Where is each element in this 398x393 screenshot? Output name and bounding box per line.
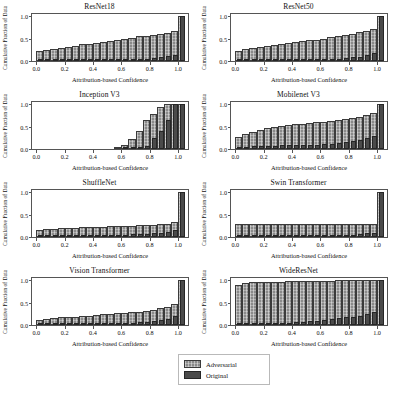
bar-original: [180, 104, 185, 149]
bar-original: [379, 192, 384, 237]
y-axis-label-text: Cumulative Fraction of Data: [201, 269, 207, 333]
y-tick: [228, 192, 232, 193]
bar-adversarial: [264, 282, 271, 325]
figure-legend: Adversarial Original: [178, 354, 270, 385]
y-tick-label: 0.5: [219, 299, 227, 306]
x-tick: [36, 149, 37, 153]
x-tick: [264, 61, 265, 65]
bar-adversarial: [313, 40, 320, 61]
y-tick-label: 0.0: [20, 58, 28, 65]
y-tick-label: 0.0: [219, 322, 227, 329]
x-tick: [292, 237, 293, 241]
y-tick: [228, 61, 232, 62]
y-axis-label: Cumulative Fraction of Data: [197, 277, 211, 326]
y-axis-label: Cumulative Fraction of Data: [0, 101, 12, 150]
y-axis-label: Cumulative Fraction of Data: [197, 101, 211, 150]
plot-axes: 0.00.20.40.60.81.00.00.51.0: [230, 189, 388, 238]
x-tick-label: 0.0: [32, 241, 40, 248]
y-tick: [228, 303, 232, 304]
x-tick-label: 1.0: [174, 65, 182, 72]
x-tick-label: 0.4: [288, 241, 296, 248]
x-tick: [377, 61, 378, 65]
plot-axes: 0.00.20.40.60.81.00.00.51.0: [230, 277, 388, 326]
x-tick: [178, 149, 179, 153]
subplot-inception-v3: Inception V3Cumulative Fraction of Data0…: [0, 88, 199, 176]
x-tick: [93, 149, 94, 153]
y-tick: [29, 39, 33, 40]
bar-adversarial: [292, 281, 299, 325]
y-tick: [29, 104, 33, 105]
y-tick: [228, 280, 232, 281]
x-tick-label: 0.6: [117, 241, 125, 248]
x-tick-label: 0.6: [117, 329, 125, 336]
y-tick: [228, 237, 232, 238]
y-tick-label: 0.0: [20, 322, 28, 329]
bar-group: [32, 190, 188, 237]
legend-entry-original: Original: [184, 370, 264, 380]
bar-adversarial: [143, 120, 150, 149]
bar-adversarial: [249, 282, 256, 325]
x-tick-label: 0.0: [231, 241, 239, 248]
x-tick-label: 0.4: [288, 153, 296, 160]
bar-adversarial: [335, 36, 342, 61]
subplot-title: Swin Transformer: [199, 178, 398, 187]
plot-axes: 0.00.20.40.60.81.00.00.51.0: [31, 189, 189, 238]
subplot-wideresnet: WideResNetCumulative Fraction of Data0.0…: [199, 264, 398, 352]
x-tick: [349, 325, 350, 329]
y-tick-label: 0.5: [20, 211, 28, 218]
subplot-title: Inception V3: [0, 90, 199, 99]
x-tick-label: 0.6: [316, 65, 324, 72]
x-tick-label: 0.6: [316, 241, 324, 248]
y-tick-label: 0.0: [20, 234, 28, 241]
x-tick-label: 1.0: [174, 329, 182, 336]
x-tick-label: 0.2: [61, 329, 69, 336]
y-tick-label: 0.5: [219, 123, 227, 130]
bar-adversarial: [128, 38, 135, 61]
bar-adversarial: [320, 39, 327, 61]
y-axis-label-text: Cumulative Fraction of Data: [201, 93, 207, 157]
x-tick: [150, 149, 151, 153]
y-tick-label: 0.5: [20, 123, 28, 130]
bar-original: [379, 104, 384, 149]
bar-original: [180, 16, 185, 61]
x-axis-label: Attribution-based Confidence: [230, 340, 388, 347]
plot-area: [32, 14, 188, 61]
plot-area: [32, 278, 188, 325]
bar-group: [231, 190, 387, 237]
bar-adversarial: [114, 147, 121, 149]
x-tick: [320, 149, 321, 153]
legend-swatch-adversarial-icon: [184, 360, 201, 368]
x-tick: [320, 237, 321, 241]
subplot-title: ShuffleNet: [0, 178, 199, 187]
subplot-resnet18: ResNet18Cumulative Fraction of Data0.00.…: [0, 0, 199, 88]
y-tick: [29, 280, 33, 281]
plot-area: [231, 190, 387, 237]
x-tick: [377, 237, 378, 241]
x-tick: [178, 61, 179, 65]
bar-adversarial: [306, 40, 313, 61]
x-tick: [93, 237, 94, 241]
y-tick-label: 0.0: [219, 234, 227, 241]
bar-adversarial: [150, 35, 157, 61]
bar-adversarial: [121, 39, 128, 61]
x-axis-label: Attribution-based Confidence: [230, 252, 388, 259]
bar-original: [379, 280, 384, 325]
x-tick-label: 0.2: [61, 241, 69, 248]
x-tick: [36, 325, 37, 329]
x-tick: [65, 325, 66, 329]
y-tick-label: 0.0: [219, 58, 227, 65]
y-tick: [228, 127, 232, 128]
y-axis-label-text: Cumulative Fraction of Data: [2, 93, 8, 157]
x-tick-label: 0.0: [32, 329, 40, 336]
x-tick: [65, 237, 66, 241]
bar-group: [32, 278, 188, 325]
subplot-shufflenet: ShuffleNetCumulative Fraction of Data0.0…: [0, 176, 199, 264]
x-tick-label: 1.0: [373, 153, 381, 160]
x-tick: [264, 149, 265, 153]
subplot-title: Vision Transformer: [0, 266, 199, 275]
x-tick-label: 0.4: [89, 153, 97, 160]
bar-adversarial: [299, 281, 306, 325]
legend-label-original: Original: [206, 372, 228, 379]
subplot-vision-transformer: Vision TransformerCumulative Fraction of…: [0, 264, 199, 352]
y-tick-label: 1.0: [20, 13, 28, 20]
